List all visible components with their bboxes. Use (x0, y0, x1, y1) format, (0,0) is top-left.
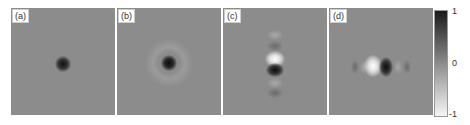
faint-dark-band (267, 41, 283, 51)
dark-spot (266, 63, 284, 77)
faint-light-band (267, 30, 283, 40)
colorbar-tick-max: 1 (452, 6, 457, 16)
faint-light-band (267, 78, 283, 88)
colorbar-tick-min: -1 (449, 109, 457, 119)
panel-label: (a) (12, 9, 29, 23)
panel-label: (b) (118, 9, 135, 23)
faint-dark-band (403, 60, 411, 74)
panel-c: (c) (223, 8, 327, 115)
faint-light-band (394, 60, 402, 74)
dark-spot (161, 55, 177, 71)
faint-dark-band (267, 88, 283, 98)
faint-dark-band (351, 60, 359, 74)
colorbar-tick-zero: 0 (452, 58, 457, 68)
panel-label: (c) (224, 9, 241, 23)
panel-label: (d) (330, 9, 347, 23)
panel-b: (b) (117, 8, 221, 115)
dark-spot (55, 56, 71, 72)
panel-d: (d) (329, 8, 433, 115)
colorbar (434, 10, 448, 117)
dark-spot (379, 57, 393, 77)
panel-a: (a) (11, 8, 115, 115)
